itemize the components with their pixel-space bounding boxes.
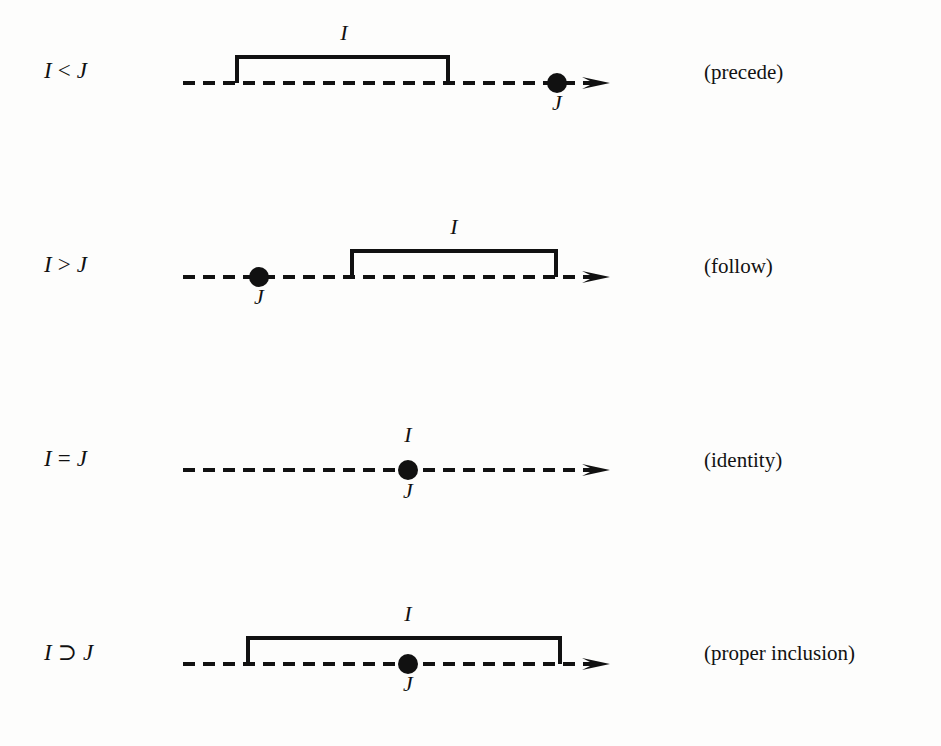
relation-operand-right: J [83, 640, 94, 665]
relation-label: I⊃J [44, 639, 94, 666]
relation-operator: < [53, 58, 77, 83]
relation-operand-left: I [44, 446, 53, 471]
interval-bracket [352, 251, 556, 277]
temporal-relations-figure: I<J I J (precede) I>J I J (follow) [0, 0, 941, 746]
point-marker-dot [398, 460, 418, 480]
relation-description: (identity) [704, 448, 782, 473]
relation-label: I=J [44, 446, 88, 472]
relation-operand-right: J [77, 252, 88, 277]
timeline-axis [170, 234, 630, 294]
point-marker-dot [249, 267, 269, 287]
relation-operand-left: I [44, 640, 53, 665]
relation-description: (proper inclusion) [704, 641, 855, 666]
timeline-axis [170, 621, 630, 681]
relation-description: (follow) [704, 254, 773, 279]
relation-operator: = [53, 446, 77, 471]
relation-label: I<J [44, 58, 88, 84]
relation-operator: ⊃ [53, 640, 83, 665]
relation-operand-right: J [77, 58, 88, 83]
relation-operand-right: J [77, 446, 88, 471]
point-marker-dot [547, 73, 567, 93]
relation-label: I>J [44, 252, 88, 278]
relation-operator: > [53, 252, 77, 277]
relation-operand-left: I [44, 252, 53, 277]
point-marker-dot [398, 654, 418, 674]
relation-operand-left: I [44, 58, 53, 83]
timeline-axis [170, 427, 630, 487]
interval-bracket [237, 57, 448, 83]
timeline-axis [170, 40, 630, 100]
relation-description: (precede) [704, 60, 783, 85]
